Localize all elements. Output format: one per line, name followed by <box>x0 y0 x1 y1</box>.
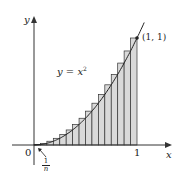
riemann-rectangle <box>111 74 117 145</box>
x-axis-label: x <box>166 150 172 160</box>
x-axis-arrow-icon <box>165 142 172 148</box>
riemann-rectangle <box>79 118 85 145</box>
origin-label: 0 <box>25 148 31 158</box>
delta-x-fraction: 1 n <box>42 158 50 173</box>
rectangles <box>34 38 137 145</box>
riemann-rectangle <box>86 111 92 145</box>
riemann-rectangle <box>118 63 124 145</box>
point-1-1 <box>135 36 139 40</box>
equation-label: y = x2 <box>57 66 87 77</box>
riemann-rectangle <box>131 38 137 145</box>
riemann-rectangle <box>124 51 130 145</box>
y-axis-arrow-icon <box>31 16 37 23</box>
x-tick-one-label: 1 <box>134 148 140 158</box>
point-label: (1, 1) <box>142 33 166 42</box>
y-axis-label: y <box>24 15 30 25</box>
pointer-arrow-icon <box>40 150 46 157</box>
